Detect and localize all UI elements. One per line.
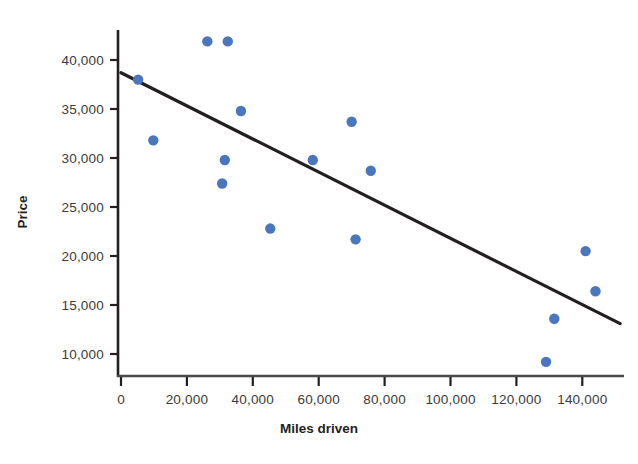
x-axis-tick-label: 60,000 xyxy=(297,392,340,407)
x-axis-tick-label: 120,000 xyxy=(491,392,541,407)
scatter-point xyxy=(223,36,233,46)
y-axis-tick-label: 10,000 xyxy=(18,347,104,362)
x-axis-title: Miles driven xyxy=(0,421,638,436)
x-axis-tick-label: 100,000 xyxy=(425,392,475,407)
scatter-point xyxy=(202,36,212,46)
scatter-data-points xyxy=(133,36,601,367)
scatter-point xyxy=(133,74,143,84)
scatter-point xyxy=(308,155,318,165)
scatter-point xyxy=(265,223,275,233)
y-axis-tick-label: 20,000 xyxy=(18,249,104,264)
y-axis-tick-label: 35,000 xyxy=(18,102,104,117)
scatter-point xyxy=(220,155,230,165)
scatter-point xyxy=(580,246,590,256)
y-axis-tick-label: 25,000 xyxy=(18,200,104,215)
scatter-point xyxy=(350,234,360,244)
x-axis-tick-label: 0 xyxy=(117,392,125,407)
y-axis-tick-label: 15,000 xyxy=(18,298,104,313)
scatter-plot-figure: 10,00015,00020,00025,00030,00035,00040,0… xyxy=(0,0,638,464)
scatter-point xyxy=(236,106,246,116)
scatter-point xyxy=(217,178,227,188)
regression-trend-line xyxy=(121,73,620,324)
scatter-point xyxy=(148,135,158,145)
x-axis-tick-label: 40,000 xyxy=(232,392,275,407)
y-axis-tick-label: 30,000 xyxy=(18,151,104,166)
scatter-point xyxy=(541,357,551,367)
x-axis-tick-label: 140,000 xyxy=(557,392,607,407)
x-axis-tick-label: 20,000 xyxy=(166,392,209,407)
scatter-point xyxy=(366,166,376,176)
y-axis-title: Price xyxy=(15,172,30,252)
scatter-point xyxy=(346,117,356,127)
scatter-point xyxy=(590,286,600,296)
y-axis-tick-label: 40,000 xyxy=(18,53,104,68)
x-axis-tick-label: 80,000 xyxy=(363,392,406,407)
scatter-point xyxy=(549,314,559,324)
x-axis-tick-marks xyxy=(121,377,582,386)
